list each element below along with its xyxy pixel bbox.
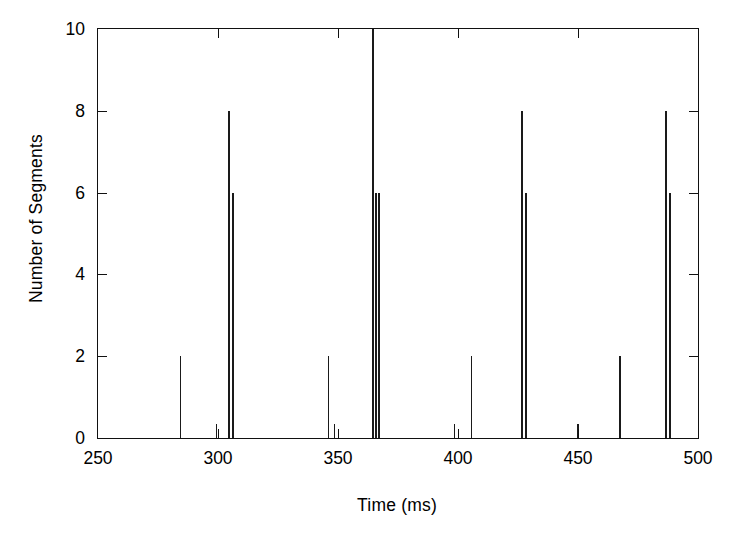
chart-figure: Number of Segments 0246810 2503003504004…	[0, 0, 743, 544]
spike-bar	[665, 111, 667, 438]
spike-bar	[328, 356, 329, 438]
x-axis-tick-label: 250	[83, 448, 112, 469]
x-axis-tick-top	[578, 29, 579, 38]
x-axis-tick	[338, 429, 339, 438]
y-axis-tick	[98, 356, 107, 357]
spike-bar	[180, 356, 181, 438]
y-axis-tick-label: 4	[75, 264, 85, 285]
y-axis-tick-label: 2	[75, 346, 85, 367]
y-axis-tick-label: 6	[75, 182, 85, 203]
spike-bar	[471, 356, 472, 438]
spike-bar	[669, 193, 671, 438]
y-axis-tick-label: 0	[75, 428, 85, 449]
spike-bar	[372, 29, 374, 438]
spike-bar	[232, 193, 234, 438]
y-axis-title: Number of Segments	[16, 0, 56, 437]
spike-bar	[525, 193, 527, 438]
x-axis-tick	[218, 429, 219, 438]
y-axis-tick-right	[689, 111, 698, 112]
y-axis-tick-label: 10	[66, 19, 85, 40]
y-axis-tick	[98, 274, 107, 275]
x-axis-tick-label: 350	[323, 448, 352, 469]
y-axis-tick	[98, 193, 107, 194]
x-axis-tick-label: 400	[443, 448, 472, 469]
x-axis-tick-top	[458, 29, 459, 38]
y-axis-tick-label: 8	[75, 100, 85, 121]
spike-bar	[378, 193, 380, 438]
spike-bar	[454, 424, 455, 438]
y-axis-tick-right	[689, 193, 698, 194]
y-axis-tick-right	[689, 356, 698, 357]
x-axis-tick-label: 450	[563, 448, 592, 469]
data-surface	[98, 29, 698, 438]
y-axis-tick-right	[689, 274, 698, 275]
x-axis-tick-label: 500	[683, 448, 712, 469]
x-axis-tick-top	[338, 29, 339, 38]
spike-bar	[619, 356, 620, 438]
x-axis-title: Time (ms)	[97, 495, 697, 516]
spike-bar	[228, 111, 230, 438]
x-axis-tick-label: 300	[203, 448, 232, 469]
spike-bar	[334, 424, 335, 438]
x-axis-tick	[578, 429, 579, 438]
x-axis-tick-top	[218, 29, 219, 38]
x-axis-tick	[458, 429, 459, 438]
spike-bar	[521, 111, 523, 438]
plot-area: 0246810 250300350400450500	[97, 28, 699, 439]
y-axis-tick	[98, 111, 107, 112]
